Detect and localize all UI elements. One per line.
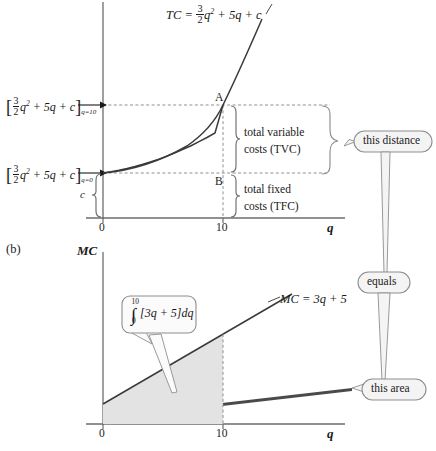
tc-equation-label: TC = 3 2 q2 + 5q + c	[166, 4, 262, 26]
panel-b-y-axis-label: MC	[77, 244, 97, 257]
tfc-line-2: costs (TFC)	[244, 198, 299, 215]
pointer-distance-to-equals	[381, 152, 390, 273]
tvc-line-2: costs (TVC)	[244, 141, 304, 158]
callout-this-area-text: this area	[371, 383, 410, 395]
panel-b-tag: (b)	[6, 243, 21, 256]
integral-expression: ∫ 10 0 [3q + 5]dq	[130, 307, 193, 319]
fixed-cost-c-label: c	[80, 189, 85, 200]
tc-at-q10-label: [ 3 2 q2 + 5q + c]q=10	[6, 96, 96, 117]
tvc-line-1: total variable	[244, 124, 304, 141]
mc-equation-rhs: 3q + 5	[313, 292, 346, 306]
integral-lower-limit: 0	[132, 317, 136, 324]
total-cost-curve	[103, 105, 223, 173]
panel-b-x-axis-label: q	[327, 427, 334, 440]
tfc-line-1: total fixed	[244, 181, 299, 198]
mc-equation-lhs: MC =	[280, 292, 310, 306]
mc-equation-label: MC = 3q + 5	[280, 293, 347, 306]
panel-a-x-axis-label: q	[327, 221, 334, 234]
panel-b-xtick-0: 0	[99, 428, 105, 440]
pointer-equals-to-area	[378, 293, 390, 381]
tc-at-q0-label: [ 3 2 q2 + 5q + c]q=0	[6, 164, 93, 185]
tc-at-q0-subscript: q=0	[81, 176, 93, 184]
integral-body: [3q + 5]dq	[140, 306, 193, 320]
tc-at-q10-subscript: q=10	[81, 108, 96, 116]
panel-b-xtick-10: 10	[216, 428, 228, 440]
tc-equation-coefficient: 3 2	[196, 4, 203, 26]
tvc-brace-label: total variable costs (TVC)	[244, 124, 304, 157]
this-distance-brace	[322, 106, 338, 174]
tc-equation-lhs: TC =	[166, 8, 193, 22]
integral-sign-icon: ∫ 10 0	[130, 307, 140, 319]
point-a-label: A	[215, 92, 223, 104]
tfc-brace-label: total fixed costs (TFC)	[244, 181, 299, 214]
panel-a-xtick-0: 0	[99, 222, 105, 234]
leader-tc-label	[266, 4, 272, 14]
callout-this-distance-text: this distance	[363, 135, 420, 147]
integral-upper-limit: 10	[132, 298, 139, 305]
panel-a-xtick-10: 10	[216, 222, 228, 234]
callout-equals-text: equals	[367, 276, 396, 288]
panel-a-axes	[86, 2, 345, 223]
point-b-label: B	[215, 176, 223, 188]
